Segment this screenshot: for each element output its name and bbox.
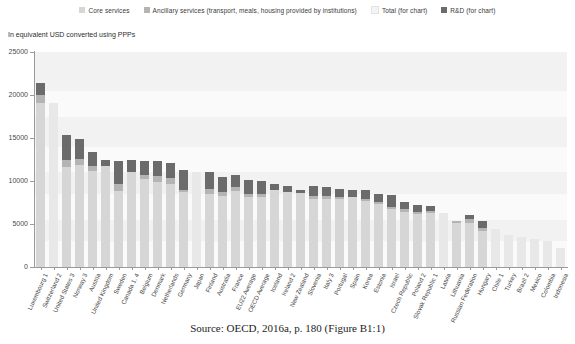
legend-swatch-ancillary-services <box>144 7 150 13</box>
bar-segment-core <box>309 199 318 267</box>
bar-colombia[interactable] <box>543 241 552 267</box>
y-axis-tick-label: 25000 <box>0 48 28 55</box>
bar-segment-rd <box>374 194 383 202</box>
bar-segment-rd <box>387 195 396 207</box>
bar-segment-core <box>270 190 279 267</box>
bar-luxembourg-1[interactable] <box>36 83 45 267</box>
bar-segment-rd <box>322 187 331 196</box>
bar-slovak-republic-1[interactable] <box>426 206 435 267</box>
bar-segment-core <box>36 103 45 267</box>
bar-belgium[interactable] <box>140 161 149 267</box>
bar-brazil-2[interactable] <box>517 237 526 267</box>
y-axis-tick-label: 5000 <box>0 220 28 227</box>
chart-legend: Core services Ancillary services (transp… <box>0 2 575 18</box>
bar-germany[interactable] <box>179 170 188 267</box>
bar-france[interactable] <box>231 175 240 267</box>
bar-oecd-average[interactable] <box>257 181 266 267</box>
bar-eu22-average[interactable] <box>244 180 253 267</box>
bar-segment-rd <box>114 161 123 183</box>
x-axis-label: Portugal <box>332 272 348 296</box>
bar-segment-rd <box>348 190 357 197</box>
bar-segment-core <box>439 213 448 267</box>
bar-united-states-3[interactable] <box>62 135 71 267</box>
x-axis-label: Estonia <box>372 272 387 294</box>
bar-segment-rd <box>309 186 318 195</box>
bar-segment-core <box>491 229 500 267</box>
bar-series-container <box>34 52 567 267</box>
y-axis-tick-label: 10000 <box>0 177 28 184</box>
bar-segment-rd <box>101 160 110 167</box>
bar-segment-ancillary <box>114 184 123 192</box>
bar-sweden[interactable] <box>114 161 123 267</box>
legend-item-total: Total (for chart) <box>371 6 427 14</box>
bar-segment-core <box>179 192 188 267</box>
legend-item-core-services: Core services <box>79 7 129 14</box>
legend-item-ancillary-services: Ancillary services (transport, meals, ho… <box>144 7 357 14</box>
bar-chile-1[interactable] <box>491 229 500 267</box>
bar-canada-1-4[interactable] <box>127 160 136 267</box>
bar-segment-rd <box>478 221 487 228</box>
bar-segment-ancillary <box>36 95 45 103</box>
legend-swatch-core-services <box>79 7 85 13</box>
legend-label-core-services: Core services <box>88 7 129 14</box>
bar-latvia[interactable] <box>439 213 448 267</box>
bar-netherlands[interactable] <box>166 163 175 267</box>
bar-segment-core <box>166 184 175 267</box>
bar-segment-core <box>49 103 58 267</box>
bar-czech-republic[interactable] <box>400 202 409 267</box>
bar-segment-rd <box>75 139 84 159</box>
y-axis-tick-label: 20000 <box>0 91 28 98</box>
bar-lithuania[interactable] <box>452 221 461 267</box>
bar-hungary[interactable] <box>478 221 487 267</box>
bar-turkey[interactable] <box>504 235 513 267</box>
bar-italy-3[interactable] <box>322 187 331 267</box>
bar-korea[interactable] <box>361 190 370 267</box>
x-axis-label: Russian Federation <box>449 272 478 324</box>
x-axis-label: Brazil 2 <box>515 272 530 294</box>
bar-segment-rd <box>127 160 136 172</box>
bar-segment-core <box>478 231 487 267</box>
bar-segment-rd <box>231 175 240 187</box>
bar-segment-rd <box>413 205 422 212</box>
bar-japan[interactable] <box>192 172 201 267</box>
bar-segment-core <box>465 223 474 267</box>
bar-segment-core <box>192 172 201 267</box>
bar-switzerland-2[interactable] <box>49 103 58 267</box>
bar-segment-core <box>218 196 227 267</box>
bar-segment-rd <box>244 180 253 194</box>
bar-united-kingdom[interactable] <box>101 160 110 268</box>
bar-segment-core <box>296 193 305 267</box>
bar-segment-core <box>127 172 136 267</box>
bar-austria[interactable] <box>88 152 97 267</box>
bar-segment-rd <box>257 181 266 194</box>
bar-segment-rd <box>36 83 45 95</box>
bar-segment-core <box>101 166 110 267</box>
bar-segment-ancillary <box>62 160 71 167</box>
bar-segment-core <box>413 214 422 267</box>
bar-denmark[interactable] <box>153 161 162 267</box>
bar-poland-2[interactable] <box>413 205 422 267</box>
bar-portugal[interactable] <box>335 189 344 267</box>
bar-new-zealand[interactable] <box>296 190 305 267</box>
bar-segment-core <box>62 167 71 267</box>
bar-segment-core <box>205 194 214 267</box>
bar-indonesia[interactable] <box>556 248 565 267</box>
bar-estonia[interactable] <box>374 194 383 267</box>
bar-segment-rd <box>335 189 344 198</box>
bar-russian-federation[interactable] <box>465 215 474 267</box>
legend-label-total: Total (for chart) <box>382 7 427 14</box>
bar-mexico[interactable] <box>530 239 539 267</box>
bar-segment-core <box>556 248 565 267</box>
bar-segment-core <box>231 191 240 267</box>
bar-segment-rd <box>62 135 71 161</box>
bar-slovenia[interactable] <box>309 186 318 267</box>
bar-spain[interactable] <box>348 190 357 267</box>
bar-australia[interactable] <box>218 177 227 267</box>
legend-swatch-rd <box>441 7 447 13</box>
bar-norway-3[interactable] <box>75 139 84 267</box>
bar-finland[interactable] <box>205 172 214 267</box>
bar-israel[interactable] <box>387 195 396 267</box>
bar-ireland-2[interactable] <box>283 186 292 267</box>
bar-segment-core <box>400 212 409 267</box>
bar-iceland[interactable] <box>270 184 279 267</box>
